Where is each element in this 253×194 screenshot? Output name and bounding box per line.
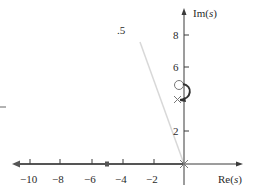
real-axis-title: Re(s) (218, 174, 242, 185)
imag-tick-label: 6 (173, 62, 179, 73)
zero-marker-icon (175, 81, 184, 90)
real-tick-label: −2 (146, 174, 158, 185)
pole-marker-icon (174, 96, 181, 103)
imag-axis-arrow-icon (182, 8, 187, 15)
real-tick-label: −4 (115, 174, 127, 185)
real-axis-arrow-icon (236, 162, 243, 167)
real-tick-label: −10 (20, 174, 37, 185)
breakpoint-marker (105, 162, 109, 167)
imag-ticks (184, 35, 189, 131)
real-tick-label: −8 (52, 174, 64, 185)
imag-tick-label: 8 (173, 30, 179, 41)
locus-arrow-left-icon (12, 161, 20, 168)
real-tick-label: −6 (84, 174, 96, 185)
damping-line-label: .5 (117, 25, 125, 36)
imag-axis-title: Im(s) (193, 8, 217, 19)
root-locus-plot (0, 0, 253, 194)
imag-tick-label: 2 (173, 126, 179, 137)
